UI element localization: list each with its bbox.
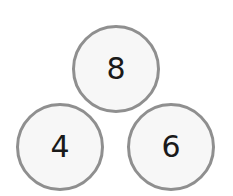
whole-number: 8 <box>106 54 125 84</box>
part-circle-left: 4 <box>16 103 104 191</box>
part-circle-right: 6 <box>127 103 215 191</box>
part-number-right: 6 <box>161 132 180 162</box>
whole-circle: 8 <box>72 25 160 113</box>
part-number-left: 4 <box>50 132 69 162</box>
